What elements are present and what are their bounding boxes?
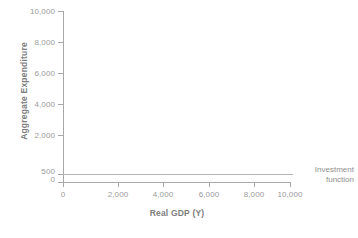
x-tick-label-4000: 4,000 [141,190,185,199]
x-tick-label-10000: 10,000 [268,190,312,199]
y-tick-label-6000: 6,000 [9,69,55,78]
x-tick-mark-4000 [163,182,164,187]
x-tick-mark-0 [63,182,64,187]
y-tick-mark-2000 [58,135,63,136]
x-tick-label-0: 0 [41,190,85,199]
investment-function-label-line2: function [296,175,354,185]
investment-function-label: Investment function [296,165,354,185]
y-tick-mark-8000 [58,42,63,43]
investment-function-line [63,174,293,175]
y-tick-label-2000: 2,000 [9,131,55,140]
chart-canvas: 10,000 8,000 6,000 4,000 2,000 500 0 0 2… [0,0,358,238]
x-tick-label-2000: 2,000 [96,190,140,199]
x-tick-mark-8000 [254,182,255,187]
y-tick-label-10000: 10,000 [9,7,55,16]
y-tick-label-0: 0 [9,175,55,184]
y-axis-title: Aggregate Expenditure [19,21,29,161]
y-tick-mark-4000 [58,104,63,105]
x-tick-label-6000: 6,000 [187,190,231,199]
x-tick-mark-10000 [290,182,291,187]
x-tick-mark-2000 [118,182,119,187]
y-tick-label-8000: 8,000 [9,38,55,47]
y-axis-line [63,11,64,183]
y-tick-mark-10000 [58,11,63,12]
x-axis-title: Real GDP (Y) [63,208,291,218]
y-tick-mark-6000 [58,73,63,74]
y-tick-label-4000: 4,000 [9,100,55,109]
x-axis-line [63,182,291,183]
investment-function-label-line1: Investment [296,165,354,175]
x-tick-mark-6000 [209,182,210,187]
